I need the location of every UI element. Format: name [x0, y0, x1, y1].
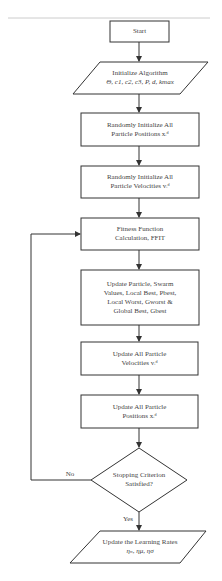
update-positions-line1: Update All Particle	[113, 403, 167, 412]
update-lr-line1: Update the Learning Rates	[103, 538, 178, 547]
start-text: Start	[133, 27, 146, 36]
stopping-line1: Stopping Criterion	[113, 471, 165, 480]
update-velocities-line2: Velocities vᵢᵈ	[121, 359, 157, 368]
update-best-label: Update Particle, Swarm Values, Local Bes…	[81, 270, 199, 325]
init-positions-label: Randomly Initialize All Particle Positio…	[81, 113, 199, 146]
stopping-line2: Satisfied?	[125, 480, 153, 489]
update-positions-line2: Positions xᵢᵈ	[122, 412, 156, 421]
init-algorithm-line2: Θ, c1, c2, c3, P, d, kmax	[106, 78, 174, 87]
init-algorithm-line1: Initialize Algorithm	[112, 69, 167, 78]
start-label: Start	[110, 21, 169, 42]
stopping-criterion-label: Stopping Criterion Satisfied?	[95, 462, 183, 498]
update-best-line2: Values, Local Best, Pbest,	[104, 289, 177, 298]
update-learning-rates-label: Update the Learning Rates ηₙ, ημ, ησ	[80, 531, 200, 563]
update-positions-label: Update All Particle Positions xᵢᵈ	[81, 395, 198, 428]
init-velocities-line2: Particle Velocities vᵢᵈ	[110, 182, 169, 191]
update-velocities-line1: Update All Particle	[113, 350, 167, 359]
fitness-line1: Fitness Function	[117, 225, 163, 234]
update-best-line3: Local Worst, Gworst &	[107, 298, 172, 307]
edge-label-yes: Yes	[120, 515, 136, 524]
edge-label-no: No	[62, 470, 78, 479]
init-velocities-line1: Randomly Initialize All	[107, 173, 173, 182]
update-best-line1: Update Particle, Swarm	[107, 280, 174, 289]
init-positions-line2: Particle Positions xᵢᵈ	[111, 130, 168, 139]
fitness-label: Fitness Function Calculation, FFIT	[81, 218, 199, 250]
update-velocities-label: Update All Particle Velocities vᵢᵈ	[81, 342, 198, 375]
init-velocities-label: Randomly Initialize All Particle Velocit…	[81, 166, 199, 198]
fitness-line2: Calculation, FFIT	[115, 234, 165, 243]
init-algorithm-label: Initialize Algorithm Θ, c1, c2, c3, P, d…	[80, 62, 200, 94]
update-lr-line2: ηₙ, ημ, ησ	[126, 547, 153, 556]
init-positions-line1: Randomly Initialize All	[107, 121, 173, 130]
update-best-line4: Global Best, Gbest	[113, 307, 166, 316]
